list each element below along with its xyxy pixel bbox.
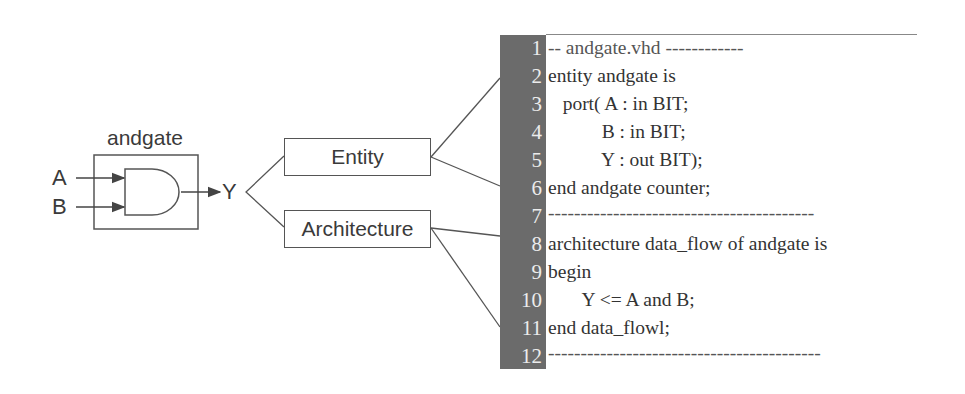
line-number: 7 [502, 204, 542, 228]
line-number: 4 [502, 120, 542, 144]
architecture-box: Architecture [284, 210, 431, 248]
arch-to-line11 [431, 228, 500, 327]
y-branch-lines [246, 156, 284, 227]
output-y-label: Y [222, 179, 237, 205]
line-number: 2 [502, 64, 542, 88]
block-title: andgate [107, 126, 183, 150]
line-number: 1 [502, 36, 542, 60]
line-number: 9 [502, 260, 542, 284]
input-a-label: A [52, 165, 67, 191]
entity-box: Entity [284, 138, 431, 176]
code-line: ----------------------------------------… [548, 341, 821, 365]
code-line: Y <= A and B; [548, 288, 695, 312]
architecture-label: Architecture [301, 217, 413, 241]
line-number: 5 [502, 148, 542, 172]
entity-to-line6 [431, 157, 500, 186]
code-line: ----------------------------------------… [548, 201, 814, 225]
code-line: entity andgate is [548, 64, 676, 88]
diagram-wires [0, 0, 965, 394]
code-line: Y : out BIT); [548, 148, 703, 172]
line-number: 8 [502, 232, 542, 256]
arch-to-line8 [431, 228, 500, 236]
code-top-border [546, 34, 917, 35]
code-line: B : in BIT; [548, 120, 686, 144]
code-line: end andgate counter; [548, 176, 710, 200]
code-line: architecture data_flow of andgate is [548, 232, 827, 256]
line-number: 11 [502, 316, 542, 340]
code-line: begin [548, 260, 591, 284]
and-gate-symbol [125, 169, 179, 215]
code-line: port( A : in BIT; [548, 92, 688, 116]
line-number: 10 [502, 288, 542, 312]
code-line: -- andgate.vhd ------------ [548, 36, 743, 60]
code-line: end data_flowl; [548, 316, 670, 340]
entity-label: Entity [331, 145, 384, 169]
line-number: 12 [502, 344, 542, 368]
entity-to-line2 [431, 78, 500, 157]
line-number: 3 [502, 92, 542, 116]
line-number: 6 [502, 176, 542, 200]
input-b-label: B [52, 194, 67, 220]
